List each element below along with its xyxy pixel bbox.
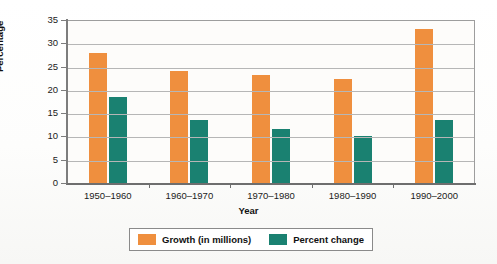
bar-percent-change [435, 120, 453, 183]
gridline [67, 68, 474, 69]
x-axis-line [66, 183, 476, 185]
y-tick [61, 160, 67, 161]
gridline [67, 114, 474, 115]
x-axis-title: Year [0, 205, 497, 216]
legend-label-percent-change: Percent change [293, 234, 364, 245]
y-tick-label: 25 [34, 61, 58, 72]
plot-area [67, 20, 475, 183]
bar-growth [170, 71, 188, 183]
x-tick [312, 183, 313, 188]
gridline [67, 137, 474, 138]
y-axis-tick-labels: 05101520253035 [28, 0, 58, 264]
y-tick [61, 136, 67, 137]
bars-layer [67, 21, 474, 183]
y-tick [61, 43, 67, 44]
x-tick-label: 1980–1990 [329, 190, 377, 201]
legend-item-percent-change: Percent change [269, 234, 364, 245]
y-tick [61, 90, 67, 91]
orange-swatch-icon [138, 234, 156, 245]
bar-chart: 05101520253035 1950–19601960–19701970–19… [0, 0, 497, 264]
y-tick [61, 113, 67, 114]
x-tick-label: 1960–1970 [166, 190, 214, 201]
bar-percent-change [354, 136, 372, 183]
teal-swatch-icon [269, 234, 287, 245]
gridline [67, 44, 474, 45]
y-tick-label: 10 [34, 130, 58, 141]
y-tick [61, 20, 67, 21]
y-tick [61, 67, 67, 68]
x-tick [230, 183, 231, 188]
legend-item-growth: Growth (in millions) [138, 234, 251, 245]
y-axis-title: Percentage [0, 21, 5, 72]
y-tick-label: 5 [34, 154, 58, 165]
x-tick [393, 183, 394, 188]
bar-percent-change [190, 120, 208, 183]
y-tick-label: 15 [34, 107, 58, 118]
y-tick-label: 30 [34, 37, 58, 48]
gridline [67, 161, 474, 162]
bar-growth [89, 53, 107, 183]
x-tick-label: 1950–1960 [84, 190, 132, 201]
y-tick-label: 35 [34, 14, 58, 25]
x-tick-label: 1990–2000 [410, 190, 458, 201]
x-tick [149, 183, 150, 188]
y-tick-label: 20 [34, 84, 58, 95]
y-tick-label: 0 [34, 177, 58, 188]
x-tick-label: 1970–1980 [247, 190, 295, 201]
legend-label-growth: Growth (in millions) [162, 234, 251, 245]
gridline [67, 91, 474, 92]
y-tick [61, 183, 67, 184]
bar-growth [334, 79, 352, 183]
chart-legend: Growth (in millions) Percent change [129, 228, 373, 251]
bar-percent-change [109, 97, 127, 183]
